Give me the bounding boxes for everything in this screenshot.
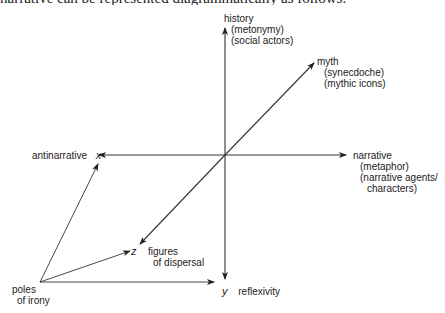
of-dispersal-text: of dispersal xyxy=(148,257,204,268)
figures-of-dispersal-label: figures of dispersal xyxy=(148,246,204,268)
irony-to-x-arrow xyxy=(40,164,98,282)
myth-label: myth (synecdoche) (mythic icons) xyxy=(317,56,386,89)
figures-title: figures xyxy=(148,246,204,257)
diagonal-axis-up xyxy=(225,63,314,155)
x-variable: x xyxy=(96,149,102,161)
myth-mythic-icons: (mythic icons) xyxy=(317,78,386,89)
antinarrative-label: antinarrative x xyxy=(32,150,101,161)
narrative-metaphor: (metaphor) xyxy=(353,161,438,172)
irony-to-z-arrow xyxy=(40,251,130,282)
history-title: history xyxy=(224,13,293,24)
reflexivity-title: reflexivity xyxy=(238,286,280,297)
reflexivity-label: y reflexivity xyxy=(222,286,280,297)
myth-title: myth xyxy=(317,56,386,67)
narrative-label: narrative (metaphor) (narrative agents/ … xyxy=(353,150,438,194)
narrative-title: narrative xyxy=(353,150,438,161)
history-metonymy: (metonymy) xyxy=(224,24,293,35)
history-social-actors: (social actors) xyxy=(224,35,293,46)
antinarrative-title: antinarrative xyxy=(32,150,87,161)
narrative-characters: characters) xyxy=(353,183,438,194)
poles-of-irony-label: poles of irony xyxy=(12,284,50,306)
history-label: history (metonymy) (social actors) xyxy=(224,13,293,46)
z-variable: z xyxy=(131,246,137,257)
narrative-agents: (narrative agents/ xyxy=(353,172,438,183)
myth-synecdoche: (synecdoche) xyxy=(317,67,386,78)
poles-text: poles xyxy=(12,284,50,295)
diagonal-axis-down xyxy=(140,155,225,244)
of-irony-text: of irony xyxy=(12,295,50,306)
y-variable: y xyxy=(222,285,228,297)
